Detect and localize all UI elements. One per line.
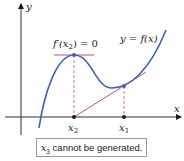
curve-point-x2 (72, 53, 76, 57)
x-axis-label: x (174, 103, 180, 114)
newton-method-diagram: y x f′(x2) = 0 y = f(x) x2 x1 (0, 0, 184, 161)
axis-point-x2 (72, 115, 76, 119)
caption-text: cannot be generated. (50, 142, 142, 153)
x1-label: x1 (119, 122, 129, 135)
derivative-label: f′(x2) = 0 (52, 38, 98, 51)
y-axis-label: y (25, 1, 32, 12)
x2-label: x2 (68, 122, 78, 135)
axis-point-x1 (122, 115, 126, 119)
curve-point-x1 (122, 84, 126, 88)
caption-box: x3 cannot be generated. (36, 138, 147, 157)
curve-label: y = f(x) (119, 33, 158, 44)
